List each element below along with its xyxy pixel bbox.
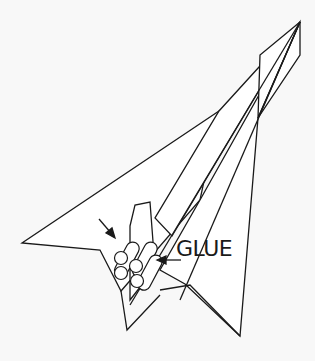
- glue-label: GLUE: [176, 236, 232, 261]
- tube-end-1: [115, 252, 128, 265]
- tube-end-3: [130, 260, 143, 273]
- paper-airplane-drawing: [0, 0, 315, 361]
- rear-point: [121, 291, 160, 330]
- tube-end-2: [115, 267, 128, 280]
- diagram-canvas: GLUE: [0, 0, 315, 361]
- tube-end-4: [131, 275, 144, 288]
